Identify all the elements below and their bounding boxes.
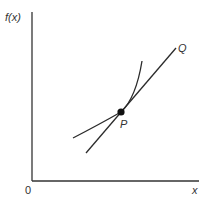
y-axis-label: f(x) [5, 11, 21, 23]
tangent-line [86, 48, 176, 153]
x-axis-label: x [191, 184, 198, 196]
origin-label: 0 [25, 184, 31, 196]
point-q-label: Q [178, 42, 187, 54]
tangent-diagram: f(x) x 0 P Q [0, 0, 211, 202]
point-p-marker [117, 108, 124, 115]
point-p-label: P [120, 118, 128, 130]
